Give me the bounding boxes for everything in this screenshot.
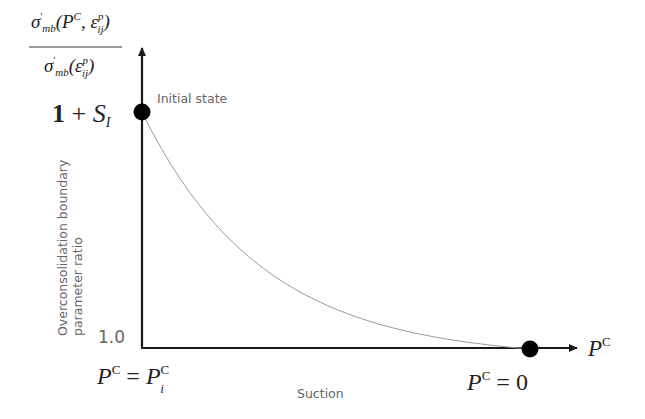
initial-state-annotation: Initial state <box>157 91 228 106</box>
y-axis-label-line1: Overconsolidation boundary <box>55 159 70 336</box>
x-axis-symbol: PC <box>587 334 611 361</box>
fraction-numerator: σ'mb(PC, εpij) <box>31 10 110 35</box>
y-tick-top-label: 1 + SI <box>52 99 112 130</box>
fraction-denominator: σ'mb(εpij) <box>44 54 94 79</box>
overconsolidation-curve <box>142 112 530 349</box>
x-tick-left-label: PC = PCi <box>96 362 169 396</box>
y-axis-label-line2: parameter ratio <box>70 237 85 336</box>
initial-state-marker <box>134 104 151 121</box>
y-axis-fraction: σ'mb(PC, εpij) σ'mb(εpij) <box>29 10 122 79</box>
x-axis-label: Suction <box>297 386 344 401</box>
x-tick-right-label: PC = 0 <box>466 368 528 395</box>
diagram-stage: σ'mb(PC, εpij) σ'mb(εpij) Initial state … <box>0 0 645 419</box>
y-tick-bottom-label: 1.0 <box>98 327 125 347</box>
final-state-marker <box>522 341 539 358</box>
y-axis-label: Overconsolidation boundary parameter rat… <box>55 159 85 336</box>
diagram-svg: σ'mb(PC, εpij) σ'mb(εpij) Initial state … <box>0 0 645 419</box>
